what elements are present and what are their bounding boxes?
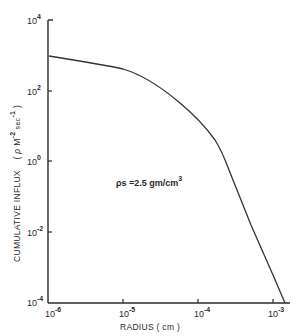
- y-tick-label-1e-2: 10-2: [27, 225, 43, 238]
- y-tick-label-1e-4: 10-4: [27, 295, 43, 308]
- y-tick-label-1e0: 100: [27, 154, 41, 167]
- x-tick-label-1e-4: 10-4: [194, 306, 210, 319]
- x-tick-label-1e-3: 10-3: [268, 306, 284, 319]
- x-axis-title: RADIUS ( cm ): [120, 322, 180, 332]
- svg-text:CUMULATIVE INFLUX ( ρ: CUMULATIVE INFLUX ( ρ M-2 sec-1 ): [9, 105, 22, 262]
- y-tick-label-1e4: 104: [27, 13, 41, 26]
- y-axis-title: CUMULATIVE INFLUX ( ρ M-2 sec-1 ): [9, 105, 22, 262]
- log-log-chart: 104 102 100 10-2 10-4 10-6 10-5 10-4 10-…: [0, 0, 301, 336]
- x-tick-label-1e-6: 10-6: [45, 306, 61, 319]
- y-tick-label-1e2: 102: [27, 84, 41, 97]
- x-tick-labels: 10-6 10-5 10-4 10-3: [45, 306, 284, 319]
- x-tick-label-1e-5: 10-5: [119, 306, 135, 319]
- density-annotation: ρs =2.5 gm/cm3: [116, 175, 182, 188]
- y-tick-labels: 104 102 100 10-2 10-4: [27, 13, 43, 308]
